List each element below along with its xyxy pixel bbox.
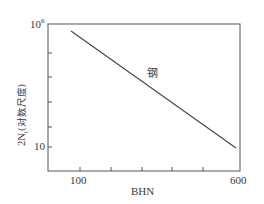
y-tick-label-bottom: 10 xyxy=(34,140,45,152)
x-axis-ticks xyxy=(80,167,203,171)
series-line-steel xyxy=(71,31,236,148)
y-tick-label-top: 106 xyxy=(30,17,45,30)
x-tick-label-100: 100 xyxy=(70,174,87,186)
x-tick-label-600: 600 xyxy=(230,174,247,186)
y-axis-label: 2Nt(对数尺度) xyxy=(14,84,30,146)
plot-frame xyxy=(48,24,240,171)
series-annotation-steel: 钢 xyxy=(147,64,158,80)
y-axis-ticks xyxy=(48,53,52,147)
chart-canvas xyxy=(0,0,264,204)
x-axis-label: BHN xyxy=(131,185,154,197)
